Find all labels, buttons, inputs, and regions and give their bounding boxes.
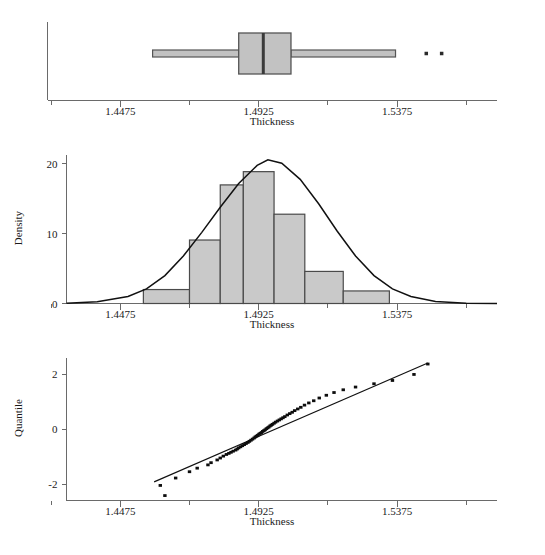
boxplot-box [239, 33, 291, 74]
histogram-bar [190, 240, 221, 303]
qqplot-point [372, 382, 375, 385]
qqplot-ylabel: Quantile [12, 399, 24, 437]
y-tick-label: 0 [52, 298, 58, 310]
qqplot-panel: -202 1.44751.49251.5375 Quantile Thickne… [12, 358, 497, 527]
y-tick-label: 10 [47, 228, 59, 240]
x-tick-label: 1.4475 [105, 308, 136, 320]
qqplot-y-ticks: -202 [48, 368, 66, 490]
x-tick-label: 1.4475 [105, 505, 136, 517]
boxplot-xlabel: Thickness [250, 115, 295, 127]
qqplot-point [188, 470, 191, 473]
qqplot-xlabel: Thickness [250, 515, 295, 527]
qqplot-point [391, 379, 394, 382]
qqplot-point [307, 402, 310, 405]
qqplot-point [206, 463, 209, 466]
qqplot-point [312, 399, 315, 402]
qqplot-point [159, 484, 162, 487]
qqplot-point [215, 459, 218, 462]
y-tick-label: -2 [48, 478, 57, 490]
qqplot-point [354, 386, 357, 389]
qqplot-point [222, 455, 225, 458]
boxplot-outlier [425, 52, 429, 56]
y-tick-label: 0 [52, 423, 58, 435]
histogram-bar [343, 291, 389, 304]
histogram-ylabel: Density [12, 210, 24, 245]
histogram-bars [143, 172, 389, 304]
histogram-panel: 01020 1.44751.49251.5375 Density Thickne… [12, 155, 497, 330]
histogram-bar [243, 172, 274, 304]
histogram-bar [305, 271, 343, 303]
qqplot-point [299, 406, 302, 409]
figure-canvas: 1.44751.49251.5375 Thickness 01020 1 [0, 0, 545, 555]
qqplot-reference-line [154, 363, 428, 482]
boxplot-left-whisker [153, 50, 239, 57]
qqplot-point [293, 409, 296, 412]
boxplot-right-whisker [291, 50, 396, 57]
histogram-xlabel: Thickness [250, 318, 295, 330]
y-tick-label: 20 [47, 158, 59, 170]
qqplot-point [332, 391, 335, 394]
qqplot-point [209, 461, 212, 464]
histogram-y-ticks: 01020 [47, 158, 67, 310]
qqplot-point [219, 457, 222, 460]
boxplot-geometry [153, 33, 444, 74]
histogram-bar [143, 290, 189, 304]
qqplot-point [174, 477, 177, 480]
qqplot-points [159, 363, 430, 497]
x-tick-label: 1.5375 [382, 505, 413, 517]
qqplot-point [163, 494, 166, 497]
boxplot-panel: 1.44751.49251.5375 Thickness [48, 22, 498, 127]
qqplot-point [325, 394, 328, 397]
qqplot-point [412, 373, 415, 376]
x-tick-label: 1.5375 [382, 308, 413, 320]
histogram-bar [274, 214, 305, 303]
qqplot-point [296, 408, 299, 411]
x-tick-label: 1.5375 [382, 105, 413, 117]
qqplot-point [342, 388, 345, 391]
qqplot-point [426, 363, 429, 366]
qqplot-point [195, 467, 198, 470]
boxplot-outlier [440, 52, 444, 56]
statistics-figure: 1.44751.49251.5375 Thickness 01020 1 [0, 0, 545, 555]
x-tick-label: 1.4475 [105, 105, 136, 117]
y-tick-label: 2 [52, 368, 58, 380]
qqplot-point [318, 397, 321, 400]
qqplot-point [303, 404, 306, 407]
